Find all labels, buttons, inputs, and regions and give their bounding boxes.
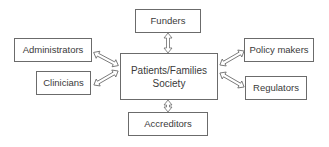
node-patients-families-society: Patients/Families Society <box>120 53 218 100</box>
node-policy-makers: Policy makers <box>244 38 314 62</box>
node-label: Funders <box>151 15 186 27</box>
center-label-line2: Society <box>153 77 186 90</box>
node-accreditors: Accreditors <box>128 112 208 136</box>
arrow-clinicians-center <box>92 68 120 89</box>
node-label: Clinicians <box>43 77 84 89</box>
node-funders: Funders <box>135 9 201 33</box>
node-label: Regulators <box>253 82 299 94</box>
node-label: Administrators <box>23 44 84 56</box>
arrow-center-accreditors <box>164 100 172 112</box>
arrow-administrators-center <box>92 49 120 69</box>
arrow-center-policy-makers <box>218 48 246 69</box>
arrow-center-funders <box>164 33 172 53</box>
node-label: Policy makers <box>249 44 308 56</box>
node-administrators: Administrators <box>14 38 92 62</box>
center-label-line1: Patients/Families <box>131 64 207 77</box>
node-label: Accreditors <box>144 118 192 130</box>
node-regulators: Regulators <box>245 76 307 100</box>
arrow-center-regulators <box>218 70 246 91</box>
node-clinicians: Clinicians <box>36 71 91 95</box>
